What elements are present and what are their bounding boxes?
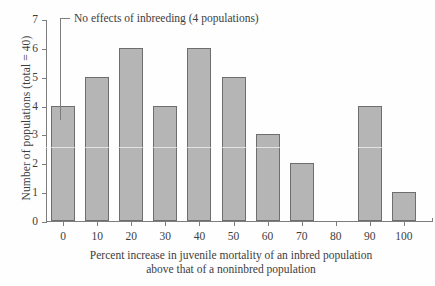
- x-axis-spine: [46, 221, 433, 222]
- x-axis-tick: [131, 222, 132, 226]
- y-axis-tick-label: 5: [22, 72, 38, 84]
- y-axis-tick: [42, 193, 47, 194]
- bar: [51, 106, 75, 221]
- bar: [256, 134, 280, 221]
- bar: [358, 106, 382, 221]
- x-axis-end-tick: [432, 218, 433, 222]
- bar: [222, 77, 246, 221]
- y-axis-tick: [42, 49, 47, 50]
- x-axis-tick: [336, 222, 337, 226]
- y-axis-tick: [42, 222, 47, 223]
- bar: [290, 163, 314, 221]
- x-axis-tick: [97, 222, 98, 226]
- y-axis-tick-label: 1: [22, 187, 38, 199]
- x-axis-tick: [63, 222, 64, 226]
- y-axis-tick: [42, 78, 47, 79]
- x-axis-tick: [165, 222, 166, 226]
- x-axis-tick: [234, 222, 235, 226]
- bar: [119, 48, 143, 221]
- bar: [392, 192, 416, 221]
- bar: [153, 106, 177, 221]
- bar: [85, 77, 109, 221]
- x-axis-title-line-2: above that of a noninbred population: [36, 262, 426, 276]
- x-axis-tick: [404, 222, 405, 226]
- x-axis-tick: [302, 222, 303, 226]
- bar: [187, 48, 211, 221]
- y-axis-tick: [42, 20, 47, 21]
- y-axis-tick: [42, 164, 47, 165]
- x-axis-tick: [199, 222, 200, 226]
- y-axis-tick-label: 7: [22, 14, 38, 26]
- y-axis-spine: [46, 20, 47, 222]
- x-axis-tick: [268, 222, 269, 226]
- y-axis-tick: [42, 135, 47, 136]
- y-axis-tick-label: 3: [22, 129, 38, 141]
- plot-area: 01234567 0102030405060708090100: [46, 20, 421, 222]
- y-axis-tick-label: 2: [22, 158, 38, 170]
- x-axis-title-line-1: Percent increase in juvenile mortality o…: [36, 248, 426, 262]
- chart-figure: Number of populations (total = 40) 01234…: [0, 0, 435, 286]
- y-axis-tick: [42, 107, 47, 108]
- y-axis-tick-label: 4: [22, 101, 38, 113]
- annotation-label: No effects of inbreeding (4 populations): [74, 12, 259, 25]
- x-axis-tick: [370, 222, 371, 226]
- y-axis-tick-label: 6: [22, 43, 38, 55]
- y-axis-tick-label: 0: [22, 216, 38, 228]
- x-axis-tick-label: 100: [384, 231, 424, 243]
- x-axis-title: Percent increase in juvenile mortality o…: [36, 248, 426, 276]
- annotation-leader-line: [60, 18, 70, 120]
